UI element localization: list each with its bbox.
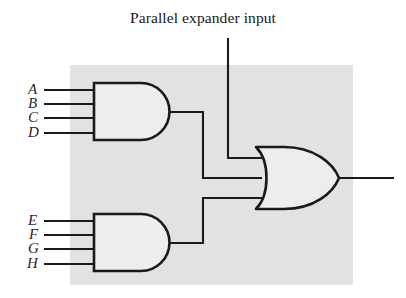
input-label-d: D [28, 125, 39, 140]
input-label-h: H [27, 256, 38, 271]
and-gate-top [94, 83, 169, 140]
logic-gate-schematic [0, 0, 406, 298]
input-label-g: G [28, 241, 39, 256]
input-label-c: C [28, 110, 38, 125]
logic-diagram-figure: Parallel expander input A B C D E F G H [0, 0, 406, 298]
and-gate-bottom [94, 214, 170, 271]
caption-parallel-expander-input: Parallel expander input [0, 9, 406, 27]
